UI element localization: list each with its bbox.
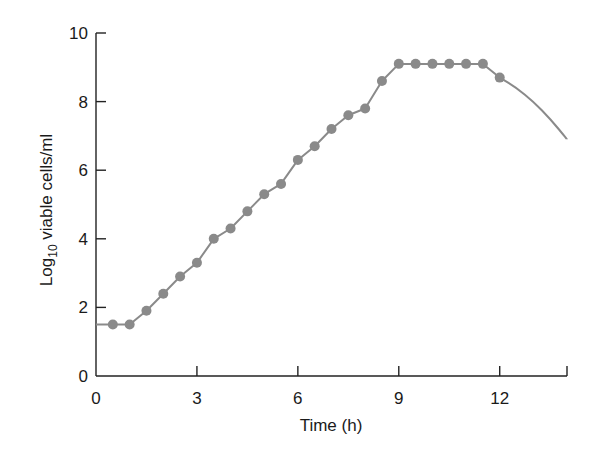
- y-tick-label: 0: [79, 367, 88, 386]
- x-ticks: 036912: [91, 366, 509, 408]
- data-point-marker: [293, 155, 303, 165]
- series-line: [500, 78, 567, 140]
- x-tick-label: 0: [91, 389, 100, 408]
- data-point-marker: [108, 320, 118, 330]
- growth-curve-chart: 0246810 036912 Log10 viable cells/ml Tim…: [0, 0, 602, 459]
- data-point-marker: [226, 224, 236, 234]
- series-line: [96, 64, 500, 325]
- data-point-marker: [158, 289, 168, 299]
- data-point-marker: [478, 59, 488, 69]
- data-point-marker: [327, 124, 337, 134]
- data-point-marker: [259, 189, 269, 199]
- data-point-marker: [444, 59, 454, 69]
- y-axis-title: Log10 viable cells/ml: [37, 134, 60, 286]
- axes: [96, 33, 567, 376]
- x-tick-label: 9: [394, 389, 403, 408]
- data-point-marker: [125, 320, 135, 330]
- data-point-marker: [209, 234, 219, 244]
- x-tick-label: 6: [293, 389, 302, 408]
- data-point-marker: [427, 59, 437, 69]
- y-tick-label: 10: [69, 24, 88, 43]
- data-point-marker: [360, 103, 370, 113]
- data-point-marker: [276, 179, 286, 189]
- x-tick-label: 3: [192, 389, 201, 408]
- data-point-marker: [141, 306, 151, 316]
- x-tick-label: 12: [490, 389, 509, 408]
- x-axis-title: Time (h): [300, 416, 363, 435]
- y-ticks: 0246810: [69, 24, 106, 386]
- data-point-marker: [343, 110, 353, 120]
- y-tick-label: 4: [79, 230, 88, 249]
- y-tick-label: 8: [79, 93, 88, 112]
- data-point-marker: [192, 258, 202, 268]
- data-point-marker: [377, 76, 387, 86]
- y-tick-label: 6: [79, 161, 88, 180]
- data-point-marker: [411, 59, 421, 69]
- data-point-marker: [242, 206, 252, 216]
- data-point-marker: [175, 272, 185, 282]
- data-series: [96, 59, 567, 330]
- data-point-marker: [394, 59, 404, 69]
- y-tick-label: 2: [79, 298, 88, 317]
- data-point-marker: [310, 141, 320, 151]
- data-point-marker: [461, 59, 471, 69]
